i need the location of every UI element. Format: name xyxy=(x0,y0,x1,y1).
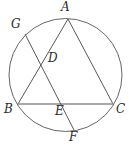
segment-GF xyxy=(25,34,74,130)
segment-AB xyxy=(18,19,68,104)
point-label-D: D xyxy=(48,52,58,64)
segment-AC xyxy=(68,19,113,104)
point-label-A: A xyxy=(61,1,70,13)
point-label-B: B xyxy=(4,103,13,115)
geometry-figure: A G D B E C F xyxy=(0,0,129,146)
point-label-G: G xyxy=(11,18,21,30)
point-label-C: C xyxy=(116,103,125,115)
point-label-F: F xyxy=(69,131,77,143)
point-label-E: E xyxy=(55,105,64,117)
